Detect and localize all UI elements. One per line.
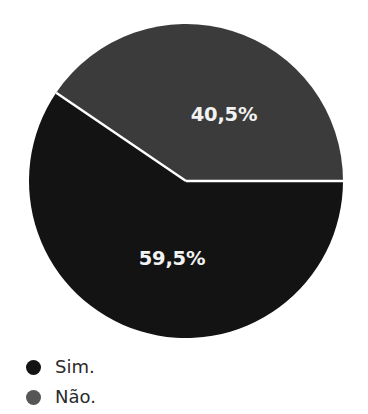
legend-label-sim: Sim. bbox=[55, 358, 95, 376]
slice-value-label-nao: 40,5% bbox=[191, 103, 258, 126]
pie-chart-figure: 40,5% 59,5% Sim. Não. bbox=[0, 0, 368, 414]
legend-color-swatch-sim bbox=[26, 360, 41, 375]
chart-legend: Sim. Não. bbox=[26, 352, 226, 412]
legend-label-nao: Não. bbox=[55, 388, 96, 406]
slice-value-label-sim: 59,5% bbox=[139, 247, 206, 270]
legend-item-nao[interactable]: Não. bbox=[26, 382, 226, 412]
legend-color-swatch-nao bbox=[26, 390, 41, 405]
legend-item-sim[interactable]: Sim. bbox=[26, 352, 226, 382]
